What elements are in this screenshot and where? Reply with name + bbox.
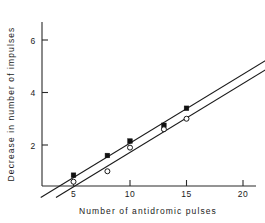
y-axis-title: Decrease in number of impulses <box>6 27 16 182</box>
data-point-open-circles-10 <box>128 145 133 150</box>
lower-regression-line <box>56 66 265 197</box>
data-point-filled-squares-8 <box>105 153 110 158</box>
x-tick-label-5: 5 <box>71 189 76 199</box>
y-tick-label-4: 4 <box>30 88 35 98</box>
data-point-open-circles-13 <box>161 127 166 132</box>
x-axis-title: Number of antidromic pulses <box>79 206 217 216</box>
scatter-plot: 6 4 2 5 10 15 20 Number of antidromic pu… <box>0 0 265 223</box>
x-tick-label-15: 15 <box>181 189 191 199</box>
y-tick-label-2: 2 <box>30 141 35 151</box>
x-tick-label-20: 20 <box>238 189 248 199</box>
data-point-open-circles-5 <box>71 179 76 184</box>
figure-container: 6 4 2 5 10 15 20 Number of antidromic pu… <box>0 0 265 223</box>
data-point-open-circles-8 <box>105 169 110 174</box>
data-point-open-circles-15 <box>184 116 189 121</box>
data-point-filled-squares-10 <box>128 139 133 144</box>
y-tick-label-6: 6 <box>30 36 35 46</box>
data-point-filled-squares-5 <box>71 173 76 178</box>
data-point-filled-squares-15 <box>184 106 189 111</box>
x-tick-label-10: 10 <box>125 189 135 199</box>
